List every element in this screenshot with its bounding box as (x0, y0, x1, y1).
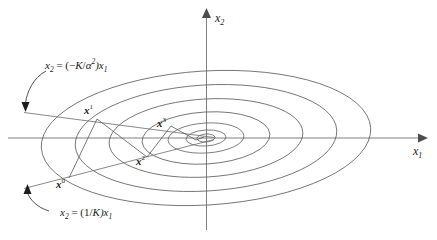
upper-leader-arrowhead (22, 102, 30, 112)
lower-leader-line (28, 193, 50, 211)
x1-axis-label: x1 (413, 145, 422, 160)
leader-lower-group (24, 184, 50, 211)
state-x3-superscript: 3 (163, 116, 167, 124)
lower-leader-arrowhead (24, 184, 32, 194)
state-x3-label: x3 (157, 117, 166, 129)
diagram-canvas (0, 0, 437, 240)
lower-eq-closing-sub: 1 (108, 212, 112, 221)
state-x1-label: x1 (84, 104, 93, 116)
leader-upper-group (22, 71, 47, 112)
lower-eq-numerator: K (93, 206, 100, 218)
lower-line-equation-label: x2 = (1/K)x1 (60, 207, 112, 221)
upper-leader-line (26, 71, 47, 103)
state-x0-label: x0 (56, 178, 65, 190)
x1-axis-arrowhead (418, 134, 428, 143)
x2-axis-label: x2 (215, 12, 224, 27)
upper-eq-equals: = (− (54, 59, 76, 71)
x2-axis-label-subscript: 2 (220, 18, 224, 27)
state-x1-superscript: 1 (90, 103, 94, 111)
state-x2-superscript: 2 (142, 154, 146, 162)
upper-eq-numerator: K (75, 59, 82, 71)
upper-line-equation-label: x2 = (−K/α2)x1 (45, 58, 107, 73)
lower-eq-equals: = (1/ (69, 206, 93, 218)
phase-portrait-figure: x2 x1 x2 = (−K/α2)x1 x2 = (1/K)x1 x0 x1 … (0, 0, 437, 240)
upper-eq-closing-sub: 1 (104, 65, 108, 74)
x1-axis-label-subscript: 1 (418, 151, 422, 160)
upper-eq-closing: )x (95, 59, 104, 71)
x2-axis-arrowhead (202, 8, 211, 18)
state-x0-superscript: 0 (62, 177, 66, 185)
state-x2-label: x2 (136, 155, 145, 167)
